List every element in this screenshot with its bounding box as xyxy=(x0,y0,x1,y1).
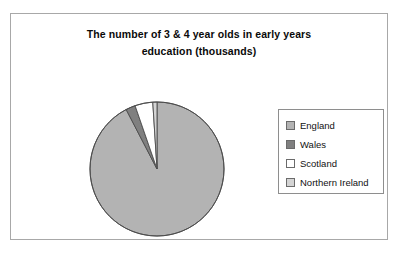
legend-label-wales: Wales xyxy=(300,139,326,150)
legend-label-northern-ireland: Northern Ireland xyxy=(300,177,369,188)
legend-label-scotland: Scotland xyxy=(300,158,337,169)
chart-legend: England Wales Scotland Northern Ireland xyxy=(278,109,384,194)
legend-item-northern-ireland[interactable]: Northern Ireland xyxy=(286,173,383,192)
legend-item-wales[interactable]: Wales xyxy=(286,135,383,154)
legend-item-england[interactable]: England xyxy=(286,116,383,135)
chart-title: The number of 3 & 4 year olds in early y… xyxy=(11,26,387,60)
pie-chart-svg xyxy=(79,91,235,247)
chart-frame: The number of 3 & 4 year olds in early y… xyxy=(10,13,388,240)
legend-swatch-northern-ireland xyxy=(286,178,295,187)
legend-item-scotland[interactable]: Scotland xyxy=(286,154,383,173)
legend-swatch-england xyxy=(286,121,295,130)
legend-swatch-scotland xyxy=(286,159,295,168)
chart-title-line-1: The number of 3 & 4 year olds in early y… xyxy=(11,26,387,43)
pie-chart xyxy=(79,91,235,247)
chart-title-line-2: education (thousands) xyxy=(11,43,387,60)
legend-swatch-wales xyxy=(286,140,295,149)
legend-label-england: England xyxy=(300,120,335,131)
